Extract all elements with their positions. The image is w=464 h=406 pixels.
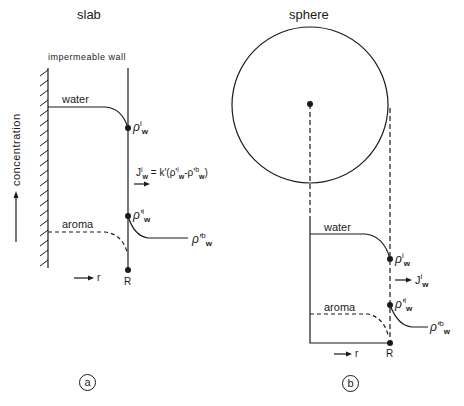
panel-b-marker: b <box>342 375 359 392</box>
water-label-sphere: water <box>324 222 351 233</box>
water-label-slab: water <box>62 94 89 105</box>
aroma-label-sphere: aroma <box>324 302 355 313</box>
flux-equation-slab: Jiw = k'(ρ'iw-ρ'bw) <box>136 166 208 180</box>
flux-label-sphere: Jiw <box>415 273 429 289</box>
concentration-axis-label: concentration <box>10 113 22 186</box>
rho-prime-i-w-label-slab: ρ'iw <box>133 208 150 224</box>
panel-a-marker: a <box>79 374 96 391</box>
r-label-slab: r <box>97 273 100 283</box>
sphere-title: sphere <box>289 8 329 21</box>
aroma-profile-sphere <box>310 314 388 335</box>
R-label-sphere: R <box>386 349 393 359</box>
impermeable-wall-label: impermeable wall <box>48 53 126 62</box>
slab-title: slab <box>77 8 101 21</box>
rho-i-w-label-slab: ρiw <box>133 120 148 136</box>
rho-prime-i-w-label-sphere: ρ'iw <box>395 297 412 313</box>
R-label-slab: R <box>124 277 131 287</box>
dot-rho-prime-i-sphere <box>387 302 393 308</box>
aroma-label-slab: aroma <box>62 219 93 230</box>
dot-rho-i-slab <box>125 125 131 131</box>
aroma-profile-slab <box>48 232 127 252</box>
water-profile-sphere <box>310 234 390 259</box>
dot-R-sphere <box>387 340 393 346</box>
dot-rho-i-sphere <box>387 256 393 262</box>
rho-prime-b-w-label-sphere: ρ'bw <box>430 320 450 336</box>
dot-rho-prime-i-slab <box>125 213 131 219</box>
dot-R-slab <box>125 267 131 273</box>
dot-center-sphere <box>307 101 313 107</box>
water-profile-slab <box>48 107 128 128</box>
r-label-sphere: r <box>355 349 358 359</box>
impermeable-wall <box>40 68 48 268</box>
rho-i-w-label-sphere: ρiw <box>395 252 410 268</box>
rho-prime-b-w-label-slab: ρ'bw <box>192 232 212 248</box>
